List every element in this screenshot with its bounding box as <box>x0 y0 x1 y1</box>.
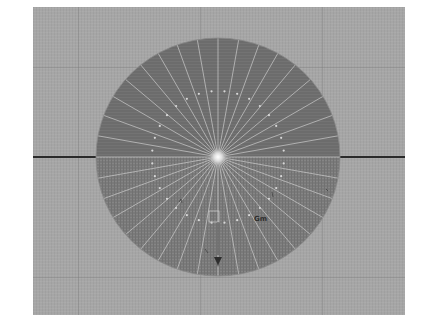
ring-dot <box>280 137 282 139</box>
ring-dot <box>223 90 225 92</box>
ring-dot <box>154 137 156 139</box>
ring-dot <box>275 187 277 189</box>
stray-mark <box>313 243 316 247</box>
ring-dot <box>175 105 177 107</box>
ring-dot <box>159 187 161 189</box>
ring-dot <box>198 93 200 95</box>
ring-dot <box>268 198 270 200</box>
ring-dot <box>259 207 261 209</box>
ring-dot <box>159 125 161 127</box>
ring-dot <box>175 207 177 209</box>
ring-dot <box>223 222 225 224</box>
ring-dot <box>198 219 200 221</box>
ring-dot <box>283 162 285 164</box>
ring-dot <box>151 162 153 164</box>
ring-dot <box>151 149 153 151</box>
ring-dot <box>248 214 250 216</box>
ring-dot <box>166 114 168 116</box>
ring-dot <box>154 175 156 177</box>
ring-dot <box>283 149 285 151</box>
ring-dot <box>275 125 277 127</box>
radial-disc[interactable] <box>33 7 405 315</box>
ring-dot <box>280 175 282 177</box>
disc-body <box>33 7 405 315</box>
3d-viewport[interactable]: Gm <box>33 7 405 315</box>
center-glow <box>209 148 227 166</box>
ring-dot <box>210 90 212 92</box>
ring-dot <box>259 105 261 107</box>
ring-dot <box>268 114 270 116</box>
ring-dot <box>236 93 238 95</box>
ring-dot <box>186 214 188 216</box>
ring-dot <box>186 98 188 100</box>
disc-upper-half <box>33 7 405 157</box>
ring-dot <box>248 98 250 100</box>
ring-dot <box>236 219 238 221</box>
right-mark-label: Gm <box>254 216 267 223</box>
ring-dot <box>166 198 168 200</box>
page: Gm <box>0 0 422 327</box>
disc-lower-half <box>33 157 405 315</box>
